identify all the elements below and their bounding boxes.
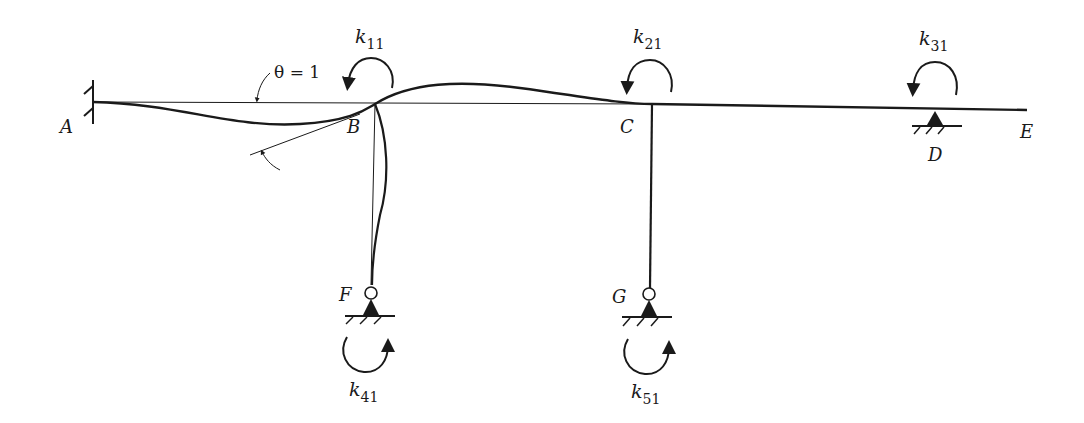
- node-label-C: C: [620, 116, 634, 137]
- pin-support-icon-D: [912, 111, 962, 134]
- node-label-F: F: [338, 284, 353, 305]
- node-label-G: G: [612, 286, 626, 307]
- pin-support-icon-F: [345, 287, 395, 324]
- stiffness-label-k41: k41: [349, 378, 378, 405]
- pin-support-icon-G: [622, 288, 672, 326]
- beam-CE: [652, 104, 1027, 110]
- node-label-B: B: [346, 116, 360, 137]
- node-label-A: A: [58, 116, 73, 137]
- moment-arrow-icon-k31: [913, 62, 957, 95]
- moment-arrow-icon-k41: [343, 337, 388, 372]
- theta-label: θ = 1: [274, 62, 320, 82]
- rotation-arrow-icon-lower: [262, 152, 280, 170]
- fixed-support-icon-A: [84, 80, 93, 124]
- moment-arrow-icon-k51: [624, 339, 669, 374]
- tangent-line-B: [250, 114, 360, 155]
- stiffness-label-k11: k11: [355, 25, 384, 52]
- node-label-E: E: [1019, 121, 1033, 142]
- stiffness-label-k51: k51: [631, 380, 660, 407]
- stiffness-label-k21: k21: [633, 25, 662, 52]
- column-CG: [650, 104, 652, 288]
- moment-arrow-icon-k21: [627, 60, 672, 92]
- moment-arrow-icon-k11: [348, 58, 393, 88]
- node-label-D: D: [927, 144, 943, 165]
- rotation-arrow-icon-upper: [257, 73, 270, 100]
- stiffness-label-k31: k31: [919, 27, 948, 54]
- frame-diagram: θ = 1 A B C D E F G k11 k21 k31: [0, 0, 1084, 423]
